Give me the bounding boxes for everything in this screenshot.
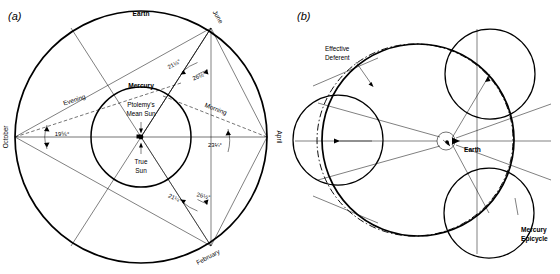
label-ptolemys-mean-sun-line2: Mean Sun [126, 110, 156, 117]
earth-to-lower-epicycle-line [452, 144, 489, 213]
label-true-sun-line2: Sun [135, 167, 147, 174]
label-mercury: Mercury [128, 82, 154, 90]
label-month-april: April [275, 131, 283, 144]
label-evening: Evening [62, 93, 87, 108]
angle-april: 23¼° [208, 142, 222, 148]
left-epicycle-center-arrow [334, 139, 340, 144]
angle-june-left: 21¼° [167, 58, 182, 70]
true-sun-arrowhead [139, 143, 143, 148]
angle-october: 19⅚° [55, 131, 70, 137]
label-month-february: February [195, 247, 222, 266]
label-morning: Morning [204, 101, 229, 117]
panel-a-letter: (a) [8, 10, 22, 22]
left-epicycle-tangent-lower [313, 196, 378, 223]
label-ptolemys-mean-sun-line1: Ptolemy's [127, 101, 155, 109]
label-earth: Earth [133, 10, 150, 17]
ptolemaic-mercury-diagram: (a) [0, 0, 560, 274]
angle-june-right: 26½° [192, 71, 207, 82]
label-mercury-epicycle-line1: Mercury [521, 226, 547, 234]
effective-deferent-oval [308, 34, 523, 245]
october-arc-arrowhead-bottom [44, 143, 50, 148]
april-to-june-line [211, 28, 267, 137]
label-true-sun-line1: True [135, 158, 148, 165]
tangent-line-upper-right [456, 104, 551, 138]
angle-february-right: 26½° [196, 191, 211, 200]
figure-container: (a) [0, 0, 560, 274]
panel-a: (a) [2, 9, 283, 267]
panel-b-letter: (b) [297, 10, 311, 22]
true-sun-marker [137, 135, 141, 139]
october-to-june-line [15, 28, 211, 137]
june-arc-left-arrowhead [181, 70, 187, 75]
label-earth-b: Earth [464, 146, 481, 153]
label-month-june: June [212, 9, 225, 25]
morning-elongation-dashed-line [163, 96, 267, 137]
april-arc-arrowhead [226, 131, 232, 136]
label-effective-deferent-line2: Deferent [325, 54, 350, 61]
label-month-october: October [2, 125, 9, 149]
panel-b: (b) [293, 10, 551, 258]
effective-deferent-leader-arrowhead [369, 82, 374, 87]
left-epicycle-tangent-upper [313, 58, 378, 86]
effective-deferent-leader-line [356, 62, 372, 85]
october-to-february-line [15, 137, 211, 246]
june-angle-arc-left [183, 63, 198, 72]
earth-to-left-epicycle-lower-tangent [318, 146, 440, 180]
angle-february-left: 21¼° [167, 192, 182, 203]
mean-sun-arrowhead [139, 129, 143, 134]
february-angle-arc-left [183, 202, 198, 211]
earth-to-left-epicycle-upper-tangent [318, 103, 440, 137]
mercury-epicycle-leader-line [515, 198, 518, 215]
april-to-february-line [211, 137, 267, 246]
label-effective-deferent-line1: Effective [325, 45, 350, 52]
label-mercury-epicycle-line2: Epicycle [521, 235, 548, 243]
